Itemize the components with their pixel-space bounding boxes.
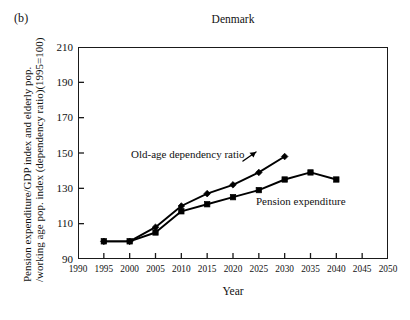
x-tick-label: 2000 [117, 265, 143, 274]
x-tick-label: 2005 [143, 265, 169, 274]
series-annotation-pension-expenditure: Pension expenditure [256, 196, 346, 207]
y-tick-label: 130 [37, 183, 73, 194]
y-axis-label-line-1: Pension expenditure/GDP index and elderl… [22, 67, 33, 282]
chart-title: Denmark [78, 14, 388, 26]
y-tick-label: 170 [37, 112, 73, 123]
figure-panel: (b) Denmark Pension expenditure/GDP inde… [0, 0, 410, 320]
x-tick-label: 2045 [349, 265, 375, 274]
x-tick-label: 2035 [298, 265, 324, 274]
x-tick-label: 2020 [220, 265, 246, 274]
y-tick-label: 150 [37, 148, 73, 159]
series-annotation-old-age-dependency-ratio: Old-age dependency ratio [131, 149, 245, 160]
x-tick-label: 2030 [272, 265, 298, 274]
y-tick-label: 90 [37, 254, 73, 265]
y-axis-label-line-2: /working age pop. index (dependency rati… [34, 38, 45, 282]
x-tick-label: 2050 [375, 265, 401, 274]
x-tick-label: 2025 [246, 265, 272, 274]
x-axis-label: Year [78, 286, 388, 298]
y-tick-label: 210 [37, 42, 73, 53]
x-tick-label: 2015 [194, 265, 220, 274]
y-tick-label: 110 [37, 218, 73, 229]
y-tick-label: 190 [37, 77, 73, 88]
x-tick-label: 1995 [91, 265, 117, 274]
x-tick-label: 1990 [65, 265, 91, 274]
x-tick-label: 2010 [168, 265, 194, 274]
x-tick-label: 2040 [323, 265, 349, 274]
